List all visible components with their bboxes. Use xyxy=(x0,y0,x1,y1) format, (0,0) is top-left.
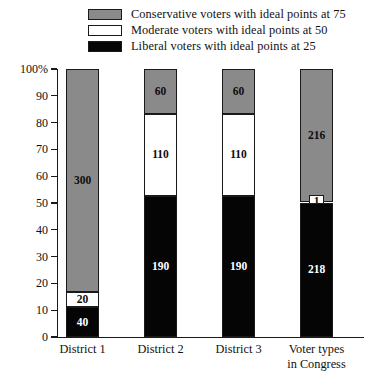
y-tick-40 xyxy=(51,229,57,230)
legend-item-conservative: Conservative voters with ideal points at… xyxy=(88,7,368,22)
bar-1-value-conservative: 300 xyxy=(74,175,91,186)
bar-2-segment-liberal[interactable]: 190 xyxy=(144,196,177,337)
bar-3-value-conservative: 60 xyxy=(233,86,245,97)
bar-4-segment-liberal[interactable]: 218 xyxy=(300,203,333,337)
y-tick-20 xyxy=(51,283,57,284)
y-tick-label-60: 60 xyxy=(2,170,48,182)
bar-2-value-conservative: 60 xyxy=(155,86,167,97)
bar-3-segment-moderate[interactable]: 110 xyxy=(222,114,255,196)
bar-2-value-moderate: 110 xyxy=(152,149,169,160)
legend-label-conservative: Conservative voters with ideal points at… xyxy=(131,8,346,21)
bar-2-value-liberal: 190 xyxy=(152,261,169,272)
bar-3-segment-liberal[interactable]: 190 xyxy=(222,196,255,337)
bar-1-segment-moderate[interactable]: 20 xyxy=(66,292,99,307)
bar-4-segment-conservative[interactable]: 216 xyxy=(300,69,333,202)
x-label-4-line-2: in Congress xyxy=(269,357,365,372)
y-tick-label-10: 10 xyxy=(2,304,48,316)
bar-3-value-liberal: 190 xyxy=(230,261,247,272)
bar-4[interactable]: 2161218 xyxy=(300,69,333,337)
y-axis-line xyxy=(57,69,58,337)
bar-1-value-moderate: 20 xyxy=(77,294,89,305)
y-tick-0 xyxy=(51,336,57,337)
y-tick-60 xyxy=(51,176,57,177)
legend-item-moderate: Moderate voters with ideal points at 50 xyxy=(88,23,368,38)
chart-legend: Conservative voters with ideal points at… xyxy=(88,7,368,55)
x-axis-label-4: Voter typesin Congress xyxy=(269,342,365,371)
bar-3-value-moderate: 110 xyxy=(230,149,247,160)
legend-label-liberal: Liberal voters with ideal points at 25 xyxy=(131,40,316,53)
y-tick-30 xyxy=(51,256,57,257)
x-label-4-line-1: Voter types xyxy=(269,342,365,357)
y-tick-100% xyxy=(51,68,57,69)
y-tick-label-100%: 100% xyxy=(2,63,48,75)
y-tick-label-90: 90 xyxy=(2,90,48,102)
y-tick-label-80: 80 xyxy=(2,117,48,129)
y-tick-label-50: 50 xyxy=(2,197,48,209)
legend-swatch-conservative xyxy=(88,9,122,20)
bar-3-segment-conservative[interactable]: 60 xyxy=(222,69,255,114)
bar-2[interactable]: 60110190 xyxy=(144,69,177,337)
y-tick-90 xyxy=(51,95,57,96)
y-tick-label-40: 40 xyxy=(2,224,48,236)
y-tick-label-70: 70 xyxy=(2,143,48,155)
stacked-bar-chart: Conservative voters with ideal points at… xyxy=(0,0,372,376)
bar-3[interactable]: 60110190 xyxy=(222,69,255,337)
legend-swatch-moderate xyxy=(88,25,122,36)
legend-swatch-liberal xyxy=(88,41,122,52)
legend-label-moderate: Moderate voters with ideal points at 50 xyxy=(131,24,328,37)
y-tick-70 xyxy=(51,149,57,150)
y-tick-10 xyxy=(51,310,57,311)
y-tick-label-20: 20 xyxy=(2,277,48,289)
bar-4-value-liberal: 218 xyxy=(308,264,325,275)
legend-item-liberal: Liberal voters with ideal points at 25 xyxy=(88,39,368,54)
bar-2-segment-conservative[interactable]: 60 xyxy=(144,69,177,114)
bar-1-value-liberal: 40 xyxy=(77,317,89,328)
bar-1-segment-liberal[interactable]: 40 xyxy=(66,307,99,337)
y-tick-80 xyxy=(51,122,57,123)
bar-1[interactable]: 3002040 xyxy=(66,69,99,337)
bar-1-segment-conservative[interactable]: 300 xyxy=(66,69,99,292)
bar-2-segment-moderate[interactable]: 110 xyxy=(144,114,177,196)
y-tick-label-30: 30 xyxy=(2,251,48,263)
bar-4-value-conservative: 216 xyxy=(308,130,325,141)
y-tick-50 xyxy=(51,202,57,203)
